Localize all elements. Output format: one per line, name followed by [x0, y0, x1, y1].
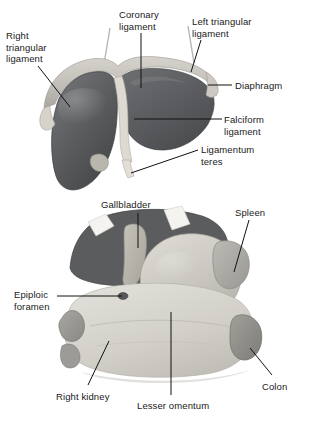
- ligamentum-teres: [122, 160, 134, 178]
- upper-panel-art: [40, 26, 218, 190]
- right-triangular-ligament-tip: [40, 106, 55, 130]
- left-diaphragm-tip: [206, 72, 218, 97]
- label-coronary-ligament: Coronary ligament: [119, 9, 159, 32]
- label-epiploic-foramen: Epiploic foramen: [14, 289, 50, 312]
- colon-body: [230, 315, 262, 360]
- label-colon: Colon: [262, 381, 287, 393]
- stomach-sheen: [156, 252, 200, 284]
- label-ligamentum-teres: Ligamentum teres: [201, 144, 254, 167]
- right-lobe-sheen: [58, 88, 110, 128]
- label-spleen: Spleen: [235, 207, 265, 219]
- label-right-triangular-ligament: Right triangular ligament: [6, 30, 47, 65]
- label-diaphragm: Diaphragm: [235, 80, 282, 92]
- label-left-triangular-ligament: Left triangular ligament: [192, 16, 252, 39]
- right-kidney-body: [59, 311, 85, 342]
- gallbladder-fundus: [90, 154, 108, 171]
- label-lesser-omentum: Lesser omentum: [137, 400, 209, 412]
- spleen-body: [213, 241, 249, 289]
- epiploic-foramen-opening: [118, 293, 128, 300]
- coronary-ligament-spike: [104, 28, 110, 64]
- omentum-body: [65, 283, 253, 377]
- label-right-kidney: Right kidney: [56, 391, 109, 403]
- lower-panel-art: [59, 206, 262, 383]
- label-falciform-ligament: Falciform ligament: [224, 114, 264, 137]
- label-gallbladder: Gallbladder: [101, 199, 151, 211]
- anatomical-figure: Right triangular ligament Coronary ligam…: [0, 0, 311, 421]
